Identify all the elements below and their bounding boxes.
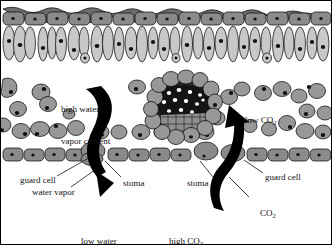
- label-water-vapor: water vapor: [32, 187, 75, 198]
- leader-co2: [229, 177, 249, 197]
- label-co2-leader-sub: 2: [273, 212, 276, 219]
- label-stoma-left: stoma: [123, 178, 145, 189]
- lower-epidermis-layer: [3, 142, 331, 166]
- label-low-co2-sub: 2: [273, 119, 276, 126]
- label-high-co2: high CO2 content: [169, 215, 203, 245]
- label-high-co2-sub: 2: [200, 240, 203, 245]
- lower-epidermis-cells: [3, 142, 331, 166]
- label-guard-cell-right: guard cell: [265, 172, 301, 183]
- leader-water-vapor: [71, 167, 99, 187]
- palisade-mesophyll-layer: [3, 26, 329, 63]
- label-low-water-vapor: low water vapor content: [81, 215, 130, 245]
- leader-guard-cell-right: [244, 160, 263, 173]
- vascular-bundle: [144, 70, 223, 145]
- label-high-water-vapor-line2: vapor content: [61, 136, 110, 147]
- water-vapor-arrowhead: [96, 171, 114, 197]
- leaf-diagram-canvas: [1, 1, 332, 245]
- label-stoma-right: stoma: [187, 178, 209, 189]
- guard-cell-right-upper: [194, 142, 218, 160]
- label-co2-leader: CO2: [251, 197, 276, 230]
- label-low-water-vapor-line1: low water: [81, 236, 130, 245]
- label-high-co2-text: high CO: [169, 236, 200, 245]
- leaf-cross-section-figure: high water vapor content low CO2 guard c…: [0, 0, 332, 245]
- label-low-co2: low CO2: [236, 104, 277, 137]
- leader-stoma-right: [200, 161, 213, 177]
- label-high-co2-line1: high CO2: [169, 236, 203, 245]
- label-guard-cell-left: guard cell: [20, 175, 56, 186]
- label-high-water-vapor: high water vapor content: [61, 83, 110, 167]
- label-high-water-vapor-line1: high water: [61, 104, 110, 115]
- label-low-co2-text: low CO: [245, 115, 273, 125]
- label-co2-leader-text: CO: [260, 208, 273, 218]
- upper-epidermis-layer: [3, 7, 331, 25]
